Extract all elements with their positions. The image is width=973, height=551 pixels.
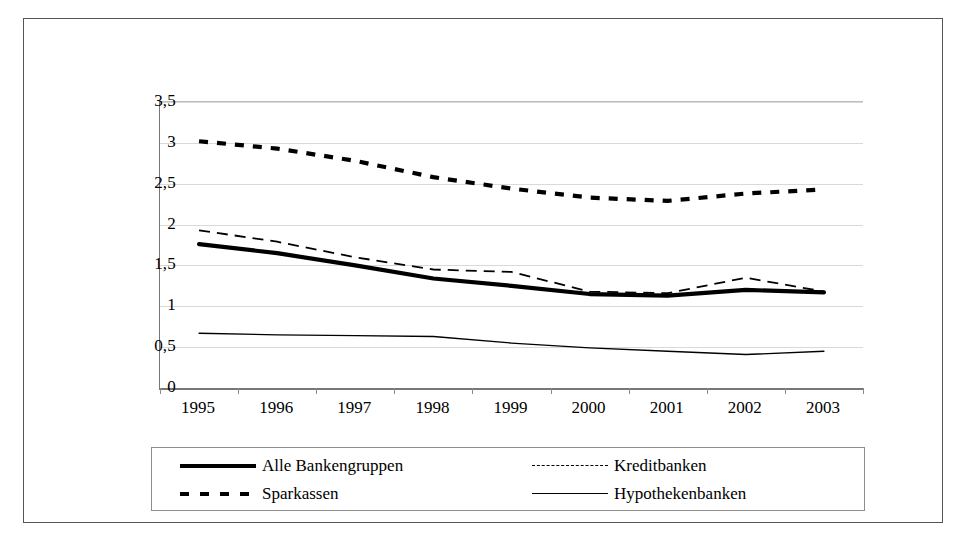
legend-label: Alle Bankengruppen	[262, 457, 403, 475]
x-axis-tick-label: 2001	[632, 399, 702, 417]
x-axis-tick-label: 1995	[163, 399, 233, 417]
figure-frame: 00,511,522,533,5 19951996199719981999200…	[23, 18, 943, 523]
legend-item-hypothekenbanken: Hypothekenbanken	[526, 478, 746, 510]
x-axis-tick-label: 2000	[554, 399, 624, 417]
y-axis-tick-label: 2	[136, 215, 176, 232]
x-axis-tick-label: 1998	[397, 399, 467, 417]
x-axis-tick-label: 1999	[476, 399, 546, 417]
legend-label: Hypothekenbanken	[614, 485, 746, 503]
series-line	[199, 244, 824, 295]
legend-item-sparkassen: Sparkassen	[174, 478, 338, 510]
x-axis-tick-label: 1997	[319, 399, 389, 417]
y-axis-tick-label: 1	[136, 296, 176, 313]
x-axis-tick	[707, 388, 708, 394]
x-axis-line	[159, 388, 864, 390]
x-axis-tick-label: 2003	[788, 399, 858, 417]
x-axis-tick	[472, 388, 473, 394]
y-axis-tick-label: 0,5	[136, 337, 176, 354]
x-axis-tick	[629, 388, 630, 394]
x-axis-tick	[394, 388, 395, 394]
x-axis-tick	[551, 388, 552, 394]
x-axis-tick	[316, 388, 317, 394]
chart-page: 00,511,522,533,5 19951996199719981999200…	[0, 0, 973, 551]
plot-wrapper: 00,511,522,533,5 19951996199719981999200…	[136, 79, 862, 395]
series-line	[199, 333, 824, 354]
legend-swatch-long-dash-icon	[526, 459, 612, 473]
legend-label: Kreditbanken	[614, 457, 707, 475]
x-axis-tick	[863, 388, 864, 394]
x-axis-tick	[785, 388, 786, 394]
legend-swatch-square-dot-icon	[174, 487, 260, 501]
x-axis-tick-label: 1996	[241, 399, 311, 417]
y-axis-tick-label: 0	[136, 378, 176, 395]
y-axis-tick-label: 3	[136, 133, 176, 150]
legend-label: Sparkassen	[262, 485, 338, 503]
y-axis-tick-label: 1,5	[136, 255, 176, 272]
x-axis-tick	[238, 388, 239, 394]
series-layer	[160, 102, 863, 388]
legend-row-2: Sparkassen Hypothekenbanken	[152, 478, 864, 510]
series-line	[199, 141, 824, 201]
y-axis-tick-label: 3,5	[136, 92, 176, 109]
chart-legend: Alle Bankengruppen Kreditbanken Sparkass…	[151, 447, 865, 511]
plot-area	[159, 101, 863, 388]
legend-swatch-thick-solid-icon	[174, 459, 260, 473]
legend-swatch-thin-solid-icon	[526, 487, 612, 501]
y-axis-tick-label: 2,5	[136, 174, 176, 191]
x-axis-tick-label: 2002	[710, 399, 780, 417]
